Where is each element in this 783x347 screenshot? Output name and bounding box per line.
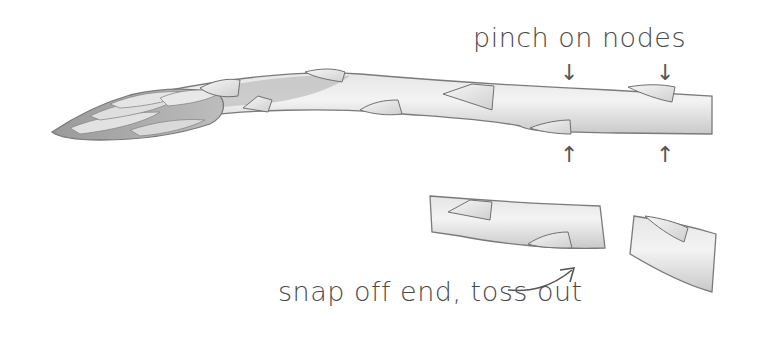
snap-label: snap off end, toss out	[278, 276, 583, 307]
main-spear	[52, 69, 712, 140]
arrow-up-icon: ↑	[656, 144, 674, 166]
arrow-down-icon: ↓	[560, 62, 578, 84]
arrow-up-icon: ↑	[560, 144, 578, 166]
kept-segment	[430, 196, 605, 248]
spear-tip	[52, 89, 224, 140]
pinch-label: pinch on nodes	[473, 22, 686, 53]
snapped-end	[630, 216, 716, 292]
arrow-down-icon: ↓	[656, 62, 674, 84]
